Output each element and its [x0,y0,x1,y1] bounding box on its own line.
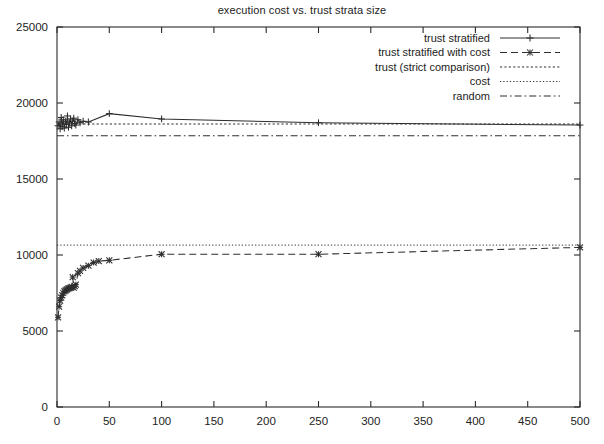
chart-container: execution cost vs. trust strata size 050… [0,0,604,444]
svg-text:200: 200 [257,415,276,427]
chart-legend: trust stratifiedtrust stratified with co… [375,32,560,102]
svg-text:350: 350 [414,415,433,427]
legend-label-0: trust stratified [424,32,490,44]
series-trust-stratified-with-cost [55,244,583,320]
svg-text:0: 0 [54,415,60,427]
series-trust-stratified [55,110,584,132]
y-axis-tick-labels: 0500010000150002000025000 [16,21,48,413]
svg-text:400: 400 [466,415,485,427]
data-series-group [55,110,584,320]
svg-text:25000: 25000 [16,21,48,33]
legend-label-1: trust stratified with cost [378,46,490,58]
svg-text:0: 0 [42,401,48,413]
svg-text:150: 150 [204,415,223,427]
svg-text:5000: 5000 [22,325,48,337]
legend-label-2: trust (strict comparison) [375,61,490,73]
svg-text:250: 250 [309,415,328,427]
svg-text:100: 100 [152,415,171,427]
axis-frame [57,27,580,407]
svg-text:500: 500 [570,415,589,427]
legend-label-3: cost [470,75,490,87]
svg-text:300: 300 [361,415,380,427]
svg-text:450: 450 [518,415,537,427]
legend-label-4: random [453,90,490,102]
svg-text:10000: 10000 [16,249,48,261]
svg-text:15000: 15000 [16,173,48,185]
x-axis-tick-labels: 050100150200250300350400450500 [54,415,590,427]
plot-area: 0500010000150002000025000 05010015020025… [0,0,604,444]
svg-text:20000: 20000 [16,97,48,109]
svg-text:50: 50 [103,415,116,427]
axis-ticks [57,27,580,407]
